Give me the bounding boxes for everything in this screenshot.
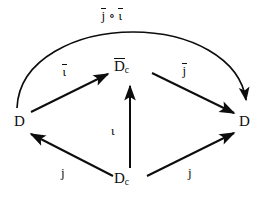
composite-operator: ∘ xyxy=(106,8,118,23)
edge-label-composite: j∘ι xyxy=(101,8,123,22)
node-d-right: D xyxy=(239,114,250,129)
node-dbar-c-subscript: c xyxy=(125,64,129,75)
edge-j-left xyxy=(31,134,113,176)
node-dc-subscript: c xyxy=(125,176,129,187)
node-dbar-c-overline: D xyxy=(114,58,125,74)
node-dc-base: D xyxy=(114,170,125,186)
composite-iotabar-base: ι xyxy=(119,8,123,23)
j-right-base: j xyxy=(188,165,192,180)
edge-label-j-left: j xyxy=(61,166,65,179)
iota-bar-overline: ι xyxy=(62,64,67,78)
edge-label-j-bar: j xyxy=(182,63,187,77)
diagram-canvas xyxy=(0,0,266,203)
commutative-diagram: D Dc D Dc j∘ι ι j ι j j xyxy=(0,0,266,203)
node-dbar-c: Dc xyxy=(114,58,129,75)
node-d-right-text: D xyxy=(239,113,250,129)
node-d-left-text: D xyxy=(14,113,25,129)
node-dc: Dc xyxy=(114,171,129,187)
node-d-left: D xyxy=(14,114,25,129)
edge-label-iota-bar: ι xyxy=(62,64,67,78)
node-dbar-c-base: D xyxy=(114,58,125,74)
iota-bar-base: ι xyxy=(63,64,67,79)
edge-label-iota: ι xyxy=(111,124,115,137)
edge-iota-bar xyxy=(31,74,108,112)
j-bar-base: j xyxy=(183,63,187,78)
edge-j-bar xyxy=(152,73,234,113)
composite-iotabar: ι xyxy=(118,8,123,22)
j-left-base: j xyxy=(61,165,65,180)
iota-base: ι xyxy=(111,123,115,138)
composite-jbar-base: j xyxy=(102,8,106,23)
edge-composite-arc xyxy=(17,32,246,108)
composite-jbar: j xyxy=(101,8,106,22)
edge-label-j-right: j xyxy=(188,166,192,179)
j-bar-overline: j xyxy=(182,63,187,77)
